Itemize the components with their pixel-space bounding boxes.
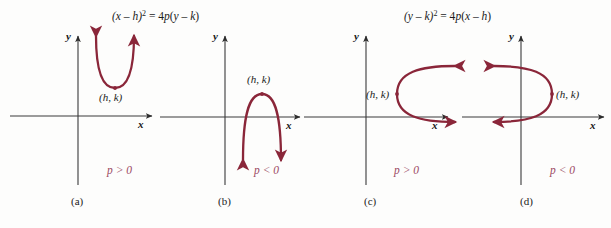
equation-title-right: (y – k)2 = 4p(x – h) xyxy=(404,9,491,23)
panel-d-p-condition: p < 0 xyxy=(549,164,575,177)
figure-canvas: (x – h)2 = 4p(y – k) (y – k)2 = 4p(x – h… xyxy=(0,0,611,228)
panel-b-vertex-dot xyxy=(260,92,264,96)
parabola-figure: (x – h)2 = 4p(y – k) (y – k)2 = 4p(x – h… xyxy=(0,0,611,228)
panel-a-p-condition: p > 0 xyxy=(106,164,132,177)
equation-title-left: (x – h)2 = 4p(y – k) xyxy=(112,9,199,23)
panel-d-vertex-label: (h, k) xyxy=(556,88,580,101)
panel-a-vertex-dot xyxy=(113,86,117,90)
panel-b: x y (h, k) p < 0 (b) xyxy=(160,30,300,208)
panel-d-label: (d) xyxy=(520,195,533,208)
panel-c-vertex-dot xyxy=(395,92,399,96)
panel-a-label: (a) xyxy=(71,195,84,208)
panel-c-y-axis-label: y xyxy=(352,30,359,42)
panel-d-vertex-dot xyxy=(550,92,554,96)
panel-c-vertex-label: (h, k) xyxy=(366,88,390,101)
panel-d: x y (h, k) p < 0 (d) xyxy=(462,30,604,208)
panel-a-x-axis-label: x xyxy=(137,118,144,130)
panel-b-x-axis-label: x xyxy=(285,119,292,131)
panel-b-y-axis-label: y xyxy=(211,30,218,42)
panel-b-p-condition: p < 0 xyxy=(253,164,279,177)
panel-d-y-axis-label: y xyxy=(507,30,514,42)
panel-a-y-axis-label: y xyxy=(64,30,71,42)
panel-c-label: (c) xyxy=(364,195,377,208)
panel-c: x y (h, k) p > 0 (c) xyxy=(304,30,455,208)
panel-b-label: (b) xyxy=(218,195,231,208)
panel-c-parabola xyxy=(397,66,455,122)
panel-d-parabola xyxy=(494,66,552,122)
panel-a: x y (h, k) p > 0 (a) xyxy=(10,30,152,208)
equation-title-right-text: (y – k) xyxy=(404,10,434,23)
panel-b-parabola xyxy=(243,94,281,160)
panel-a-vertex-label: (h, k) xyxy=(99,91,123,104)
panel-d-x-axis-label: x xyxy=(589,119,596,131)
panel-c-p-condition: p > 0 xyxy=(393,164,419,177)
panel-a-parabola xyxy=(96,36,134,88)
panel-b-vertex-label: (h, k) xyxy=(247,73,271,86)
equation-title-left-text: (x – h) xyxy=(112,10,142,23)
